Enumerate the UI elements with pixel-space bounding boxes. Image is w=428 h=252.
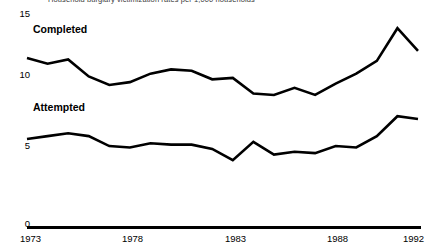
- x-axis-label-1978: 1978: [122, 233, 143, 244]
- y-axis-label-10: 10: [8, 70, 30, 80]
- series-line-completed: [27, 28, 418, 95]
- series-label-attempted: Attempted: [33, 101, 85, 113]
- series-label-completed: Completed: [33, 23, 87, 35]
- x-axis-label-1983: 1983: [225, 233, 246, 244]
- chart-figure: Household burglary victimization rates p…: [0, 0, 428, 252]
- y-axis-label-15: 15: [8, 9, 30, 19]
- y-axis-label-0: 0: [8, 219, 30, 229]
- x-axis-label-1988: 1988: [327, 233, 348, 244]
- series-line-attempted: [27, 116, 418, 160]
- x-axis-label-1973: 1973: [20, 233, 41, 244]
- x-axis-label-1992: 1992: [403, 233, 424, 244]
- chart-plot-area: [0, 0, 428, 252]
- y-axis-label-5: 5: [8, 141, 30, 151]
